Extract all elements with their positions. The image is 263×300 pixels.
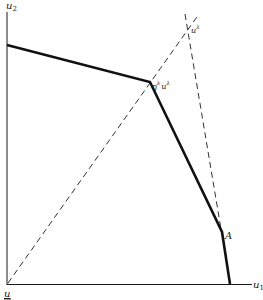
eta-u-lambda-label: ηλuλ — [152, 80, 170, 91]
y-axis-label: u2 — [6, 0, 17, 13]
u-lambda-label: uλ — [191, 24, 200, 35]
utility-frontier — [7, 45, 230, 284]
dashed-line-to-A — [185, 14, 221, 229]
origin-label: u — [4, 288, 10, 299]
dashed-ray-origin — [8, 14, 199, 283]
x-axis-label: u1 — [253, 279, 263, 292]
point-A-label: A — [224, 230, 232, 241]
utility-possibility-diagram: u2 u1 u uλ ηλuλ A — [0, 0, 263, 300]
